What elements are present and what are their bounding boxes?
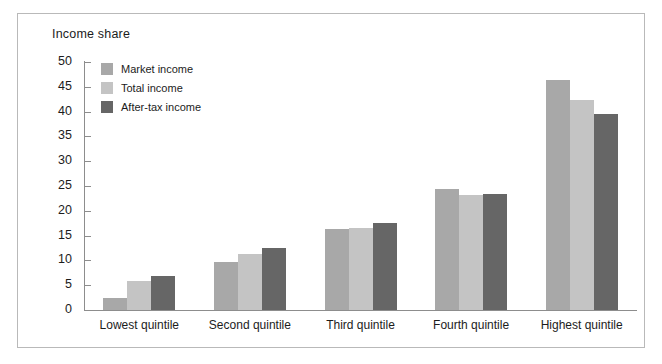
- bar: [103, 298, 127, 310]
- x-axis-line: [84, 310, 637, 311]
- x-axis-category-label: Second quintile: [209, 318, 291, 332]
- bar-group: [435, 62, 507, 310]
- y-axis-tick-label: 50: [58, 54, 72, 68]
- bar: [325, 229, 349, 310]
- bar: [594, 114, 618, 310]
- y-axis-tick-label: 20: [58, 203, 72, 217]
- bar: [373, 223, 397, 310]
- y-axis-tick-mark: [84, 310, 91, 311]
- y-axis-tick-label: 30: [58, 153, 72, 167]
- bar: [262, 248, 286, 310]
- chart-axis-title: Income share: [52, 27, 130, 41]
- bar: [435, 189, 459, 310]
- bar: [483, 194, 507, 310]
- y-axis-tick-label: 5: [65, 277, 72, 291]
- x-axis-category-label: Third quintile: [326, 318, 395, 332]
- x-axis-category-label: Lowest quintile: [100, 318, 179, 332]
- x-axis-category-label: Fourth quintile: [433, 318, 509, 332]
- bar: [238, 254, 262, 310]
- bar: [459, 195, 483, 310]
- bar: [546, 80, 570, 310]
- bar-group: [325, 62, 397, 310]
- bar: [127, 281, 151, 310]
- figure-page: Income share 05101520253035404550 Market…: [0, 0, 662, 364]
- y-axis-tick-label: 10: [58, 252, 72, 266]
- bar: [151, 276, 175, 310]
- bar-group: [103, 62, 175, 310]
- y-axis-tick-label: 25: [58, 178, 72, 192]
- bar: [349, 228, 373, 310]
- y-axis-tick-label: 45: [58, 79, 72, 93]
- y-axis-tick-label: 40: [58, 104, 72, 118]
- bar-group: [546, 62, 618, 310]
- bar-group: [214, 62, 286, 310]
- x-axis-category-label: Highest quintile: [541, 318, 623, 332]
- y-axis-tick-label: 0: [65, 302, 72, 316]
- bar: [214, 262, 238, 310]
- bar: [570, 100, 594, 310]
- y-axis-tick-label: 35: [58, 128, 72, 142]
- y-axis-tick-label: 15: [58, 228, 72, 242]
- chart-bars: [84, 62, 637, 310]
